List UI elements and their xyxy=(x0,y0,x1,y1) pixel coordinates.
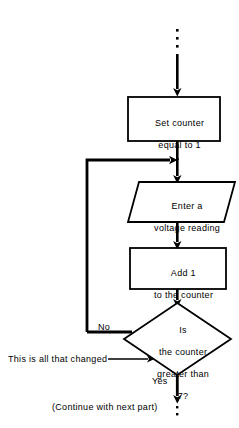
edge-label-no: No xyxy=(98,322,110,332)
node-set-counter-label: Set counter equal to 1 xyxy=(128,107,220,162)
annotation-continue-with-next-part: (Continue with next part) xyxy=(52,402,158,412)
decision-line-2: the counter xyxy=(159,347,207,357)
edge-label-yes: Yes xyxy=(152,376,168,386)
annotation-this-is-all-that-changed: This is all that changed xyxy=(8,354,107,364)
node-add-one-label: Add 1 to the counter xyxy=(130,257,226,312)
flowchart-canvas: Set counter equal to 1 Enter a voltage r… xyxy=(0,0,239,428)
set-counter-line-2: equal to 1 xyxy=(158,140,201,150)
top-ellipsis-dots xyxy=(176,29,179,48)
decision-line-1: Is xyxy=(179,325,187,335)
decision-line-4: 7? xyxy=(178,391,189,401)
enter-voltage-line-1: Enter a xyxy=(172,201,203,211)
add-one-line-2: to the counter xyxy=(154,290,213,300)
node-enter-voltage-label: Enter a voltage reading xyxy=(128,190,235,245)
enter-voltage-line-2: voltage reading xyxy=(154,223,220,233)
add-one-line-1: Add 1 xyxy=(171,268,196,278)
set-counter-line-1: Set counter xyxy=(155,118,204,128)
node-decision-label: Is the counter greater than 7? xyxy=(124,314,231,413)
